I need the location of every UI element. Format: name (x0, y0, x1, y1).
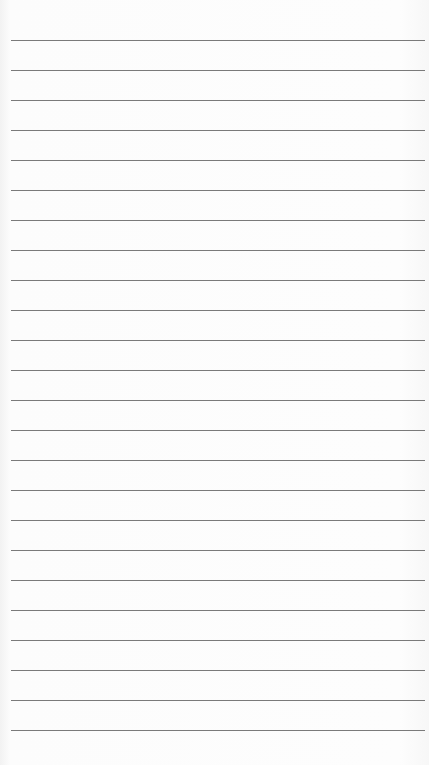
ruled-line (11, 700, 425, 701)
ruled-line (11, 580, 425, 581)
ruled-line (11, 310, 425, 311)
ruled-line (11, 220, 425, 221)
ruled-line (11, 340, 425, 341)
ruled-line (11, 370, 425, 371)
ruled-line (11, 100, 425, 101)
ruled-line (11, 640, 425, 641)
ruled-line (11, 190, 425, 191)
ruled-line (11, 550, 425, 551)
ruled-line (11, 670, 425, 671)
ruled-line (11, 130, 425, 131)
ruled-line (11, 730, 425, 731)
ruled-line (11, 280, 425, 281)
ruled-line (11, 490, 425, 491)
ruled-line (11, 520, 425, 521)
lined-paper (0, 0, 429, 765)
ruled-line (11, 40, 425, 41)
ruled-line (11, 430, 425, 431)
ruled-line (11, 610, 425, 611)
ruled-line (11, 70, 425, 71)
ruled-line (11, 160, 425, 161)
ruled-line (11, 250, 425, 251)
ruled-line (11, 400, 425, 401)
ruled-line (11, 460, 425, 461)
